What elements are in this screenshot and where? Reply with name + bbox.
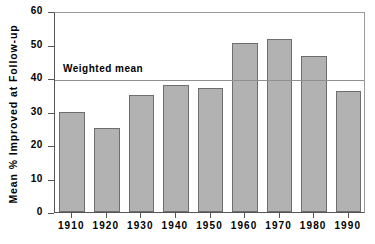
x-tick-label-1920: 1920: [93, 220, 120, 231]
bar-1940: [163, 85, 189, 212]
bar-1960: [232, 43, 258, 212]
x-tick-mark: [140, 213, 141, 218]
x-tick-mark: [279, 213, 280, 218]
bar-1930: [129, 95, 155, 212]
x-tick-mark: [348, 213, 349, 218]
x-tick-label-1940: 1940: [162, 220, 189, 231]
x-tick-mark: [71, 213, 72, 218]
x-tick-mark: [106, 213, 107, 218]
bar-1950: [198, 88, 224, 212]
y-tick-label: 30: [31, 106, 43, 117]
weighted-mean-line: [55, 80, 364, 81]
x-tick-mark: [244, 213, 245, 218]
x-tick-label-1930: 1930: [127, 220, 154, 231]
x-tick-mark: [175, 213, 176, 218]
x-tick-label-1910: 1910: [58, 220, 85, 231]
bar-1970: [267, 39, 293, 212]
x-tick-label-1980: 1980: [300, 220, 327, 231]
x-tick-mark: [210, 213, 211, 218]
x-tick-label-1950: 1950: [196, 220, 223, 231]
x-tick-label-1970: 1970: [265, 220, 292, 231]
y-tick-label: 20: [31, 139, 43, 150]
x-axis: 191019201930194019501960197019801990: [54, 213, 365, 244]
y-axis-title: Mean % Improved at Follow-up: [7, 9, 19, 219]
weighted-mean-label: Weighted mean: [63, 63, 143, 74]
x-tick-label-1960: 1960: [231, 220, 258, 231]
plot-area: Weighted mean: [54, 12, 365, 213]
bar-1920: [94, 128, 120, 212]
y-tick-label: 40: [31, 72, 43, 83]
x-tick-label-1990: 1990: [334, 220, 361, 231]
y-tick-label: 50: [31, 39, 43, 50]
bar-1990: [336, 91, 362, 212]
x-tick-mark: [313, 213, 314, 218]
bar-chart: Mean % Improved at Follow-up 01020304050…: [0, 0, 375, 244]
y-tick-label: 0: [37, 206, 43, 217]
bar-1910: [59, 112, 85, 213]
y-tick-label: 10: [31, 173, 43, 184]
y-tick-label: 60: [31, 5, 43, 16]
bar-series: [55, 13, 364, 212]
